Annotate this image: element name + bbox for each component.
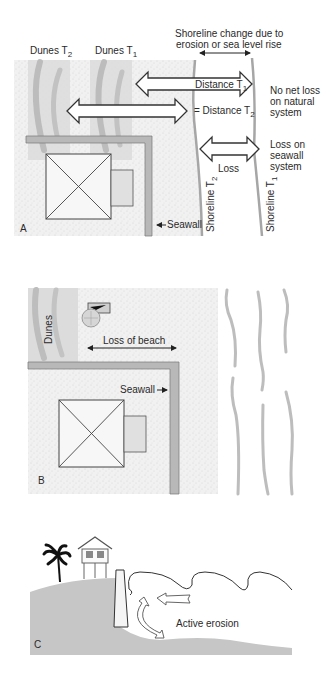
distance-t2-label: = Distance T2 [194,105,255,119]
panel-c-letter: C [34,639,41,650]
active-erosion-label: Active erosion [176,618,239,629]
dunes-t2-label: Dunes T2 [30,45,73,59]
shoreline-diagram: Dunes T2 Dunes T1 Shoreline change due t… [0,0,330,683]
svg-text:system: system [270,161,302,172]
ground-c [30,578,292,655]
panel-a-letter: A [20,223,27,234]
svg-text:seawall: seawall [270,150,303,161]
svg-text:on natural: on natural [270,96,314,107]
shoreline-change-label: Shoreline change due to [175,28,284,39]
panel-b: Dunes Loss of beach Seawall B [28,288,292,494]
loss-arrow [200,137,259,161]
shoreline-t1-label: Shoreline T1 [265,176,279,232]
palm-tree-icon [44,545,70,582]
seawall-label-b: Seawall [120,384,155,395]
waves-c [128,572,292,590]
loss-seawall-label: Loss on [270,139,305,150]
loss-label: Loss [218,163,239,174]
svg-text:system: system [270,107,302,118]
wave-lines-b [226,290,292,494]
seawall-label-a: Seawall [167,219,202,230]
panel-b-letter: B [38,475,45,486]
seawall-c [114,570,128,627]
panel-c: Active erosion C [30,537,292,655]
loss-of-beach-label: Loss of beach [103,335,165,346]
incoming-wave-arrow [157,593,190,605]
dunes-label-b: Dunes [43,315,54,344]
svg-text:erosion or sea level rise: erosion or sea level rise [176,39,282,50]
stilt-house-icon [78,537,112,579]
shoreline-t2-label: Shoreline T2 [205,176,219,232]
dunes-t1-label: Dunes T1 [95,45,138,59]
no-net-loss-label: No net loss [270,85,320,96]
panel-a: Dunes T2 Dunes T1 Shoreline change due t… [14,28,320,236]
erosion-arrow [137,597,164,638]
